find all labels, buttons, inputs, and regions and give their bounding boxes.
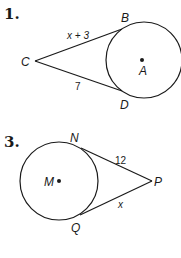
- label-q: Q: [71, 221, 80, 235]
- label-c: C: [21, 55, 30, 69]
- measure-pq: x: [117, 199, 124, 210]
- label-b: B: [121, 11, 129, 25]
- label-m: M: [44, 175, 54, 189]
- measure-np: 12: [115, 155, 127, 166]
- tangent-segment-pq: [80, 181, 152, 215]
- label-d: D: [120, 98, 129, 112]
- problem-1: 1. C B D A x + 3 7: [0, 0, 181, 128]
- tangent-circle-diagram: C B D A x + 3 7: [0, 0, 181, 128]
- label-n: N: [70, 131, 79, 145]
- measure-cd: 7: [75, 81, 81, 92]
- center-point-m: [57, 179, 61, 183]
- label-a: A: [138, 64, 147, 78]
- tangent-circle-diagram: N P Q M 12 x: [0, 128, 181, 258]
- label-p: P: [154, 175, 162, 189]
- problem-3: 3. N P Q M 12 x: [0, 128, 181, 258]
- center-point-a: [140, 58, 144, 62]
- measure-cb: x + 3: [66, 30, 89, 41]
